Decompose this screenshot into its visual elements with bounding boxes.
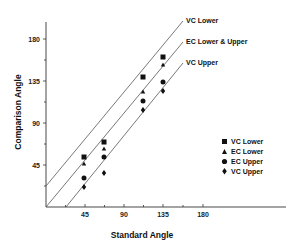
line-label-vc-upper: VC Upper xyxy=(186,59,218,67)
ref-line-ec xyxy=(46,42,183,207)
x-tick-180: 180 xyxy=(197,211,209,218)
x-tick-135: 135 xyxy=(157,211,169,218)
ref-line-vc-lower xyxy=(46,21,183,186)
x-tick-labels: 45 90 135 180 xyxy=(81,211,209,218)
y-tick-135: 135 xyxy=(28,78,40,85)
legend-ec-upper: EC Upper xyxy=(231,158,263,166)
line-label-ec: EC Lower & Upper xyxy=(186,38,248,46)
y-tick-90: 90 xyxy=(32,120,40,127)
legend-ec-lower: EC Lower xyxy=(231,148,264,155)
legend-diamond-icon xyxy=(222,168,227,175)
chart-canvas: 45 90 135 180 45 90 135 180 Standard Ang… xyxy=(0,0,297,251)
legend-square-icon xyxy=(222,139,227,144)
series-vc-lower xyxy=(82,55,166,160)
y-tick-45: 45 xyxy=(32,162,40,169)
x-axis-title: Standard Angle xyxy=(111,230,174,240)
x-tick-45: 45 xyxy=(81,211,89,218)
y-tick-180: 180 xyxy=(28,36,40,43)
legend-triangle-icon xyxy=(222,149,227,154)
legend-circle-icon xyxy=(222,159,227,164)
y-axis-title: Comparison Angle xyxy=(13,74,23,150)
legend-vc-upper: VC Upper xyxy=(231,168,263,176)
y-tick-labels: 45 90 135 180 xyxy=(28,36,40,169)
x-tick-90: 90 xyxy=(120,211,128,218)
legend-vc-lower: VC Lower xyxy=(231,138,264,145)
series-ec-upper xyxy=(82,80,166,181)
line-label-vc-lower: VC Lower xyxy=(186,17,219,24)
series-vc-upper xyxy=(82,88,165,190)
legend: VC Lower EC Lower EC Upper VC Upper xyxy=(222,138,264,176)
